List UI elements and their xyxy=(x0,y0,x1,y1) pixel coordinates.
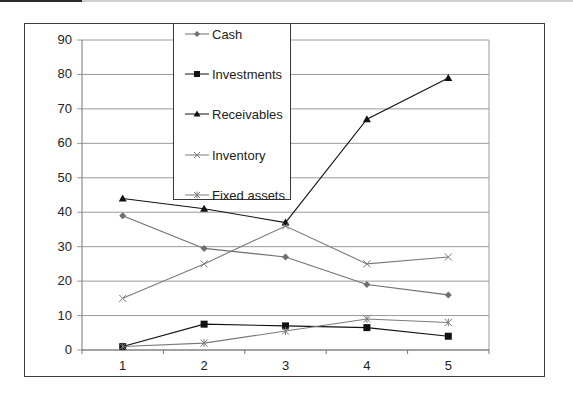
diamond-marker-icon xyxy=(201,245,208,252)
chart-legend: Cash Investments Receivables Inventory F… xyxy=(173,23,291,200)
y-tick-label: 0 xyxy=(42,342,72,357)
legend-label: Investments xyxy=(212,67,282,82)
diamond-marker-icon xyxy=(282,254,289,261)
legend-item-receivables: Receivables xyxy=(184,106,283,122)
y-tick-label: 80 xyxy=(42,66,72,81)
square-marker-icon xyxy=(445,333,452,340)
triangle-marker-icon xyxy=(363,115,371,122)
legend-label: Inventory xyxy=(212,148,265,163)
square-marker-icon xyxy=(184,68,210,80)
diamond-marker-icon xyxy=(445,291,452,298)
triangle-marker-icon xyxy=(184,108,210,120)
x-tick-label: 4 xyxy=(357,358,377,373)
x-tick-label: 5 xyxy=(438,358,458,373)
legend-item-investments: Investments xyxy=(184,66,282,82)
y-tick-label: 90 xyxy=(42,32,72,47)
y-tick-label: 50 xyxy=(42,170,72,185)
legend-label: Receivables xyxy=(212,107,283,122)
legend-label: Fixed assets xyxy=(212,188,285,203)
legend-item-fixed-assets: Fixed assets xyxy=(184,187,285,203)
square-marker-icon xyxy=(363,324,370,331)
star-marker-icon xyxy=(184,189,210,201)
legend-label: Cash xyxy=(212,27,242,42)
diamond-marker-icon xyxy=(363,281,370,288)
legend-item-inventory: Inventory xyxy=(184,147,265,163)
legend-item-cash: Cash xyxy=(184,26,242,42)
x-tick-label: 1 xyxy=(113,358,133,373)
y-tick-label: 30 xyxy=(42,239,72,254)
series-fixed-assets xyxy=(119,315,452,351)
x-marker-icon xyxy=(119,295,126,302)
x-marker-icon xyxy=(201,260,208,267)
triangle-marker-icon xyxy=(119,194,127,201)
y-tick-label: 10 xyxy=(42,308,72,323)
square-marker-icon xyxy=(201,321,208,328)
y-tick-label: 20 xyxy=(42,273,72,288)
y-tick-label: 40 xyxy=(42,204,72,219)
diamond-marker-icon xyxy=(184,28,210,40)
y-tick-label: 60 xyxy=(42,135,72,150)
series-investments xyxy=(119,321,452,350)
diamond-marker-icon xyxy=(119,212,126,219)
x-tick-label: 2 xyxy=(194,358,214,373)
x-tick-label: 3 xyxy=(276,358,296,373)
x-marker-icon xyxy=(184,149,210,161)
y-tick-label: 70 xyxy=(42,101,72,116)
